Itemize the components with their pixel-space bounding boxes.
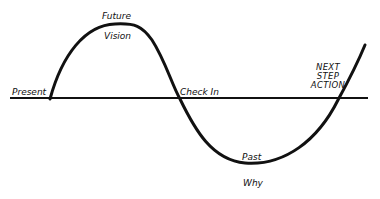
wave-diagram: Present Future Vision Check In Past Why …	[0, 0, 380, 199]
vision-label: Vision	[104, 32, 131, 41]
next-step-action-label: NEXT STEP ACTION	[310, 63, 346, 90]
present-label: Present	[12, 88, 46, 97]
check-in-label: Check In	[180, 88, 219, 97]
why-label: Why	[243, 179, 263, 188]
past-label: Past	[242, 153, 261, 162]
next-step-line-3: ACTION	[310, 81, 346, 90]
diagram-graphic	[0, 0, 380, 199]
future-label: Future	[102, 12, 131, 21]
